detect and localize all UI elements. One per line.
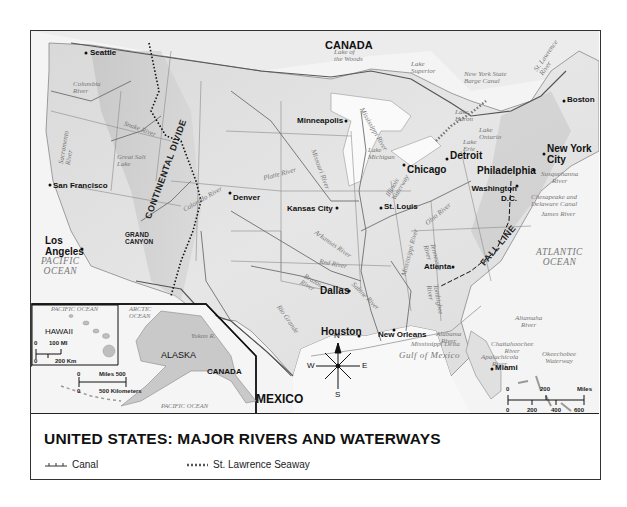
main-scale-bar [508, 395, 584, 405]
label-altamaha-river: Altamaha River [515, 315, 542, 329]
map-area: CANADA CANADA MEXICO PACIFIC OCEAN ATLAN… [31, 31, 599, 414]
city-kansas-city: Kansas City [287, 205, 333, 213]
city-houston: Houston [321, 327, 362, 337]
label-lake-huron: Lake Huron [455, 109, 473, 123]
label-chesapeake-delaware-canal: Chesapeake and Delaware Canal [531, 194, 577, 208]
hawaii-scale-zero-top: 0 [34, 340, 37, 346]
label-lake-superior: Lake Superior [411, 61, 436, 75]
map-frame: CANADA CANADA MEXICO PACIFIC OCEAN ATLAN… [30, 30, 601, 480]
label-alaska: ALASKA [161, 351, 196, 360]
scale-km-600: 600 [574, 407, 584, 413]
label-great-salt-lake: Great Salt Lake [117, 154, 146, 168]
label-gulf-of-mexico: Gulf of Mexico [399, 351, 460, 360]
city-seattle: Seattle [90, 49, 116, 57]
city-minneapolis: Minneapolis [297, 117, 343, 125]
scale-km-0: 0 [506, 407, 509, 413]
label-okeechobee-waterway: Okeechobee Waterway [542, 351, 576, 365]
city-boston: Boston [567, 96, 595, 104]
label-mexico: MEXICO [256, 393, 303, 405]
label-yukon-river: Yukon R. [191, 333, 216, 340]
legend-panel: UNITED STATES: MAJOR RIVERS AND WATERWAY… [31, 416, 599, 478]
city-detroit: Detroit [450, 151, 482, 161]
canal-symbol-icon [45, 462, 67, 468]
alaska-scale-miles: Miles 500 [99, 371, 126, 377]
hawaii-scale-km: 200 Km [55, 358, 76, 364]
compass-w: W [307, 362, 315, 370]
hawaii-scale-miles: 100 MI [49, 340, 67, 346]
alaska-scale-km: 500 Kilometers [99, 388, 142, 394]
alaska-scale-zero-top: 0 [77, 371, 80, 377]
scale-miles-unit: Miles [577, 386, 592, 392]
label-apalachicola-river: Apalachicola River [481, 354, 518, 368]
city-chicago: Chicago [407, 165, 446, 175]
legend-item-canal: Canal [45, 459, 98, 470]
label-james-river: James River [541, 211, 575, 218]
label-arctic-ocean: ARCTIC OCEAN [129, 306, 151, 319]
seaway-symbol-icon [186, 462, 208, 468]
city-philadelphia: Philadelphia [477, 166, 536, 176]
label-susquehanna-river: Susquehanna River [541, 171, 578, 185]
label-pacific-inset-bottom: PACIFIC OCEAN [161, 403, 208, 410]
compass-n: N [334, 332, 340, 340]
alaska-scale-zero-bottom: 0 [77, 388, 80, 394]
label-ny-barge-canal: New York State Barge Canal [464, 71, 507, 85]
label-lake-woods: Lake of the Woods [334, 49, 363, 63]
city-new-york-city: New York City [547, 144, 595, 165]
label-pacific-inset-top: PACIFIC OCEAN [51, 306, 98, 313]
legend-label-canal: Canal [72, 459, 98, 470]
compass-e: E [362, 362, 367, 370]
scale-km-400: 400 [551, 407, 561, 413]
scale-km-200: 200 [527, 407, 537, 413]
label-hawaii: HAWAII [45, 328, 73, 336]
legend-item-seaway: St. Lawrence Seaway [186, 459, 310, 470]
label-lake-ontario: Lake Ontario [479, 127, 501, 141]
label-columbia-river: Columbia River [73, 81, 101, 95]
city-st-louis: St. Louis [384, 203, 418, 211]
scale-miles-0: 0 [506, 386, 509, 392]
city-san-francisco: San Francisco [53, 182, 108, 190]
label-atlantic-ocean: ATLANTIC OCEAN [536, 248, 583, 267]
label-grand-canyon: GRAND CANYON [125, 231, 153, 245]
hawaii-scale-zero-bottom: 0 [34, 358, 37, 364]
map-title: UNITED STATES: MAJOR RIVERS AND WATERWAY… [44, 430, 441, 448]
label-canada-inset: CANADA [207, 368, 242, 376]
city-denver: Denver [233, 194, 260, 202]
label-mississippi-delta: Mississippi Delta [411, 341, 460, 348]
scale-miles-200: 200 [540, 386, 550, 392]
compass-s: S [335, 391, 340, 399]
city-los-angeles: Los Angeles [45, 236, 90, 257]
legend-label-seaway: St. Lawrence Seaway [213, 459, 310, 470]
city-washington-dc: Washington D.C. [471, 184, 517, 203]
city-dallas: Dallas [320, 286, 349, 296]
label-pacific-ocean: PACIFIC OCEAN [41, 257, 80, 276]
city-new-orleans: New Orleans [378, 331, 426, 339]
